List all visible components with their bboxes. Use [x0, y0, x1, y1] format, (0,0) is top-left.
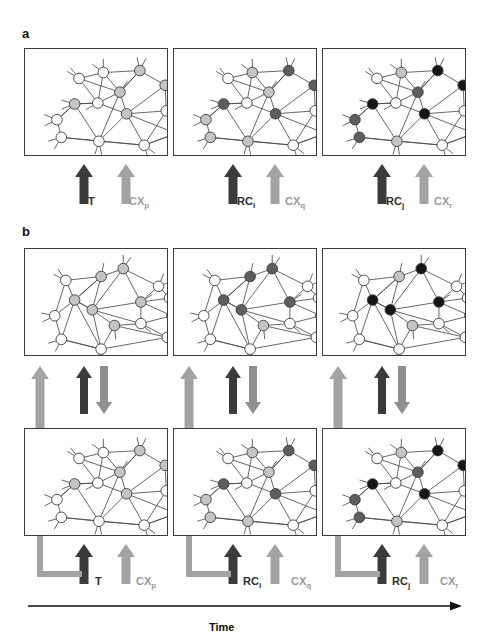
- panel-letter-a: a: [22, 27, 29, 40]
- panel-a-network-box-3: [322, 48, 466, 156]
- stimulus-dark-sub-b2: i: [259, 581, 261, 590]
- stimulus-arrow-dark-b2: [224, 544, 242, 584]
- stimulus-dark-sub-a3: j: [402, 201, 404, 210]
- stimulus-light-sub-a3: r: [449, 201, 452, 210]
- stimulus-arrow-light-b2: [266, 544, 284, 584]
- panel-a-network-box-1: [24, 48, 168, 156]
- stimulus-dark-text-a2: RC: [237, 195, 253, 207]
- panel-letter-b: b: [22, 225, 30, 238]
- panel-b-upper-network-box-1: [24, 248, 168, 356]
- stimulus-arrow-dark-b1: [75, 544, 93, 584]
- panel-b-upper-network-box-3: [322, 248, 466, 356]
- panel-b-lower-network-box-3: [322, 428, 466, 536]
- panel-a-network-box-2: [173, 48, 317, 156]
- elbow-connector-b1: [40, 536, 82, 574]
- panel-b-stimulus-label-dark-1: T: [95, 576, 102, 587]
- stimulus-light-text-a1: CX: [129, 195, 144, 207]
- stimulus-light-text-a3: CX: [434, 195, 449, 207]
- stimulus-light-text-b3: CX: [440, 575, 455, 587]
- elbow-connector-b3: [338, 536, 380, 574]
- stimulus-dark-text-b2: RC: [243, 575, 259, 587]
- panel-b-lower-network-box-2: [173, 428, 317, 536]
- stimulus-dark-sub-a2: i: [253, 201, 255, 210]
- elbow-connector-b2: [189, 536, 231, 574]
- panel-a-stimulus-label-dark-2: RCi: [237, 196, 255, 207]
- stimulus-arrow-light-a3: [415, 164, 433, 204]
- panel-b-upper-network-box-2: [173, 248, 317, 356]
- feedback-arrow-up-b2: [180, 366, 198, 428]
- stimulus-dark-text-a1: T: [88, 195, 95, 207]
- stimulus-light-text-b2: CX: [291, 575, 306, 587]
- stimulus-light-sub-b1: p: [151, 581, 156, 590]
- panel-a-stimulus-label-dark-1: T: [88, 196, 95, 207]
- interaction-arrow-up-b3: [374, 366, 390, 414]
- stimulus-light-sub-a1: p: [144, 201, 149, 210]
- interaction-arrow-down-b2: [245, 366, 261, 414]
- stimulus-light-sub-b3: r: [455, 581, 458, 590]
- panel-b-stimulus-label-light-2: CXq: [291, 576, 311, 587]
- stimulus-light-text-b1: CX: [136, 575, 151, 587]
- panel-b-lower-network-box-1: [24, 428, 168, 536]
- figure-root: a b T CXp RCi CXq RCj CXr T CXp RCi: [0, 0, 485, 641]
- time-axis-arrowhead: [450, 602, 462, 611]
- stimulus-arrow-light-b3: [415, 544, 433, 584]
- interaction-arrow-down-b1: [96, 366, 112, 414]
- panel-b-stimulus-label-dark-3: RCj: [392, 576, 410, 587]
- stimulus-light-sub-b2: q: [306, 581, 311, 590]
- stimulus-arrow-dark-b3: [373, 544, 391, 584]
- interaction-arrow-up-b1: [76, 366, 92, 414]
- stimulus-dark-sub-b3: j: [408, 581, 410, 590]
- panel-a-stimulus-label-light-1: CXp: [129, 196, 149, 207]
- time-axis-label: Time: [209, 621, 234, 633]
- interaction-arrow-down-b3: [394, 366, 410, 414]
- panel-b-stimulus-label-light-3: CXr: [440, 576, 458, 587]
- stimulus-dark-text-b1: T: [95, 575, 102, 587]
- stimulus-arrow-light-b1: [117, 544, 135, 584]
- feedback-arrow-up-b1: [31, 366, 49, 428]
- stimulus-light-text-a2: CX: [285, 195, 300, 207]
- panel-a-stimulus-label-dark-3: RCj: [386, 196, 404, 207]
- interaction-arrow-up-b2: [225, 366, 241, 414]
- panel-a-stimulus-label-light-3: CXr: [434, 196, 452, 207]
- stimulus-arrow-light-a2: [266, 164, 284, 204]
- panel-a-stimulus-label-light-2: CXq: [285, 196, 305, 207]
- stimulus-dark-text-a3: RC: [386, 195, 402, 207]
- panel-b-stimulus-label-light-1: CXp: [136, 576, 156, 587]
- feedback-arrow-up-b3: [329, 366, 347, 428]
- stimulus-dark-text-b3: RC: [392, 575, 408, 587]
- panel-b-stimulus-label-dark-2: RCi: [243, 576, 261, 587]
- stimulus-light-sub-a2: q: [300, 201, 305, 210]
